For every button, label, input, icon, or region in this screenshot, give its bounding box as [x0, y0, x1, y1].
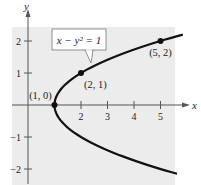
x-tick-label: 3	[105, 111, 110, 122]
point-label: (1, 0)	[29, 90, 52, 102]
x-axis-label: x	[191, 99, 197, 111]
data-point	[78, 70, 84, 76]
x-tick-label: 4	[132, 111, 137, 122]
y-tick-label: 2	[16, 36, 21, 47]
y-tick-label: −1	[10, 132, 21, 143]
parabola-chart: y x 234521−1−2 x − y² = 1 (1, 0)(2, 1)(5…	[0, 0, 201, 185]
equation-label: x − y² = 1	[56, 34, 101, 46]
y-axis-label: y	[23, 0, 29, 12]
data-point	[158, 38, 164, 44]
y-tick-label: −2	[10, 164, 21, 175]
data-point	[52, 102, 58, 108]
x-tick-label: 5	[158, 111, 163, 122]
x-axis-arrow-icon	[182, 103, 190, 108]
point-label: (5, 2)	[149, 47, 172, 59]
y-tick-label: 1	[16, 68, 21, 79]
x-tick-label: 2	[79, 111, 84, 122]
point-label: (2, 1)	[84, 79, 107, 91]
